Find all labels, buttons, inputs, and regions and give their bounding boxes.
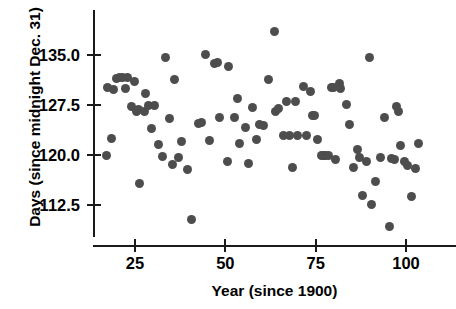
x-tick-label: 25 xyxy=(105,255,165,272)
data-point xyxy=(233,94,242,103)
data-point xyxy=(264,75,273,84)
data-point xyxy=(223,157,232,166)
scatter-plot-figure: 112.5120.0127.5135.0 255075100 Days (sin… xyxy=(0,0,456,309)
x-tick-label: 50 xyxy=(195,255,255,272)
data-point xyxy=(230,113,239,122)
data-point xyxy=(241,123,250,132)
x-tick-mark xyxy=(224,239,226,252)
x-tick-mark xyxy=(315,239,317,252)
x-tick-mark xyxy=(134,239,136,252)
data-point xyxy=(376,153,385,162)
data-point xyxy=(135,179,144,188)
data-point xyxy=(213,58,222,67)
data-point xyxy=(197,118,206,127)
data-point xyxy=(158,152,167,161)
data-point xyxy=(252,135,261,144)
data-point xyxy=(306,87,315,96)
x-axis-title: Year (since 1900) xyxy=(93,282,456,300)
data-point xyxy=(365,53,374,62)
data-point xyxy=(177,137,186,146)
data-point xyxy=(109,85,118,94)
data-point xyxy=(244,159,253,168)
x-tick-mark xyxy=(405,239,407,252)
data-point xyxy=(342,100,351,109)
data-point xyxy=(411,164,420,173)
data-point xyxy=(154,140,163,149)
data-point xyxy=(390,155,399,164)
x-tick-label: 100 xyxy=(376,255,436,272)
data-point xyxy=(215,113,224,122)
data-point xyxy=(331,155,340,164)
data-point xyxy=(362,157,371,166)
data-point xyxy=(161,53,170,62)
x-tick-label: 75 xyxy=(286,255,346,272)
data-point xyxy=(282,97,291,106)
data-point xyxy=(396,141,405,150)
data-point xyxy=(248,103,257,112)
data-point xyxy=(147,124,156,133)
data-point xyxy=(165,114,174,123)
y-axis-title: Days (since midnight Dec. 31) xyxy=(26,0,44,250)
data-point xyxy=(205,136,214,145)
data-point xyxy=(345,120,354,129)
data-point xyxy=(174,153,183,162)
data-point xyxy=(313,135,322,144)
data-point xyxy=(102,151,111,160)
data-point xyxy=(235,139,244,148)
data-point xyxy=(170,75,179,84)
data-point xyxy=(291,97,300,106)
data-point xyxy=(358,191,367,200)
data-point xyxy=(187,215,196,224)
data-point xyxy=(380,113,389,122)
y-tick-mark xyxy=(87,154,101,156)
data-point xyxy=(367,200,376,209)
data-point xyxy=(121,84,130,93)
y-tick-mark xyxy=(87,54,101,56)
data-point xyxy=(336,84,345,93)
data-point xyxy=(107,134,116,143)
data-point xyxy=(385,222,394,231)
y-axis-line xyxy=(93,10,95,237)
data-point xyxy=(371,177,380,186)
data-point xyxy=(310,111,319,120)
data-point xyxy=(302,131,311,140)
data-point xyxy=(201,50,210,59)
data-point xyxy=(259,121,268,130)
data-point xyxy=(407,192,416,201)
data-point xyxy=(150,101,159,110)
data-point xyxy=(141,89,150,98)
y-tick-mark xyxy=(87,204,101,206)
data-point xyxy=(414,139,423,148)
data-point xyxy=(224,62,233,71)
data-point xyxy=(130,77,139,86)
data-point xyxy=(293,131,302,140)
data-point xyxy=(394,107,403,116)
data-point xyxy=(349,163,358,172)
data-point xyxy=(270,27,279,36)
data-point xyxy=(183,165,192,174)
y-tick-mark xyxy=(87,104,101,106)
x-axis-line xyxy=(93,245,456,247)
data-point xyxy=(288,163,297,172)
data-point xyxy=(274,104,283,113)
